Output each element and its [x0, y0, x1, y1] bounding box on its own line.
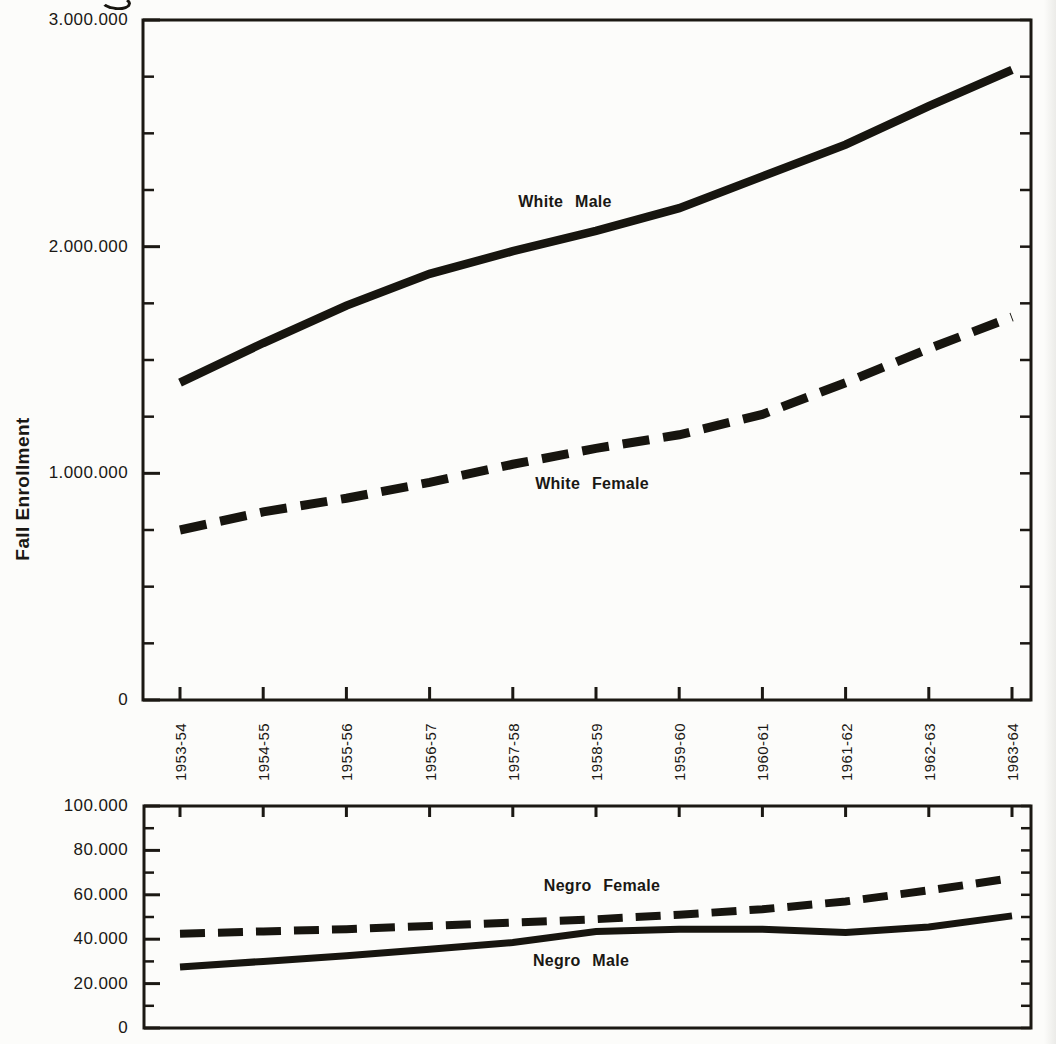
y-tick-label: 3.000.000 [0, 10, 128, 30]
y-tick-label: 2.000.000 [0, 237, 128, 257]
enrollment-charts-canvas [0, 0, 1056, 1044]
x-tick-label: 1956-57 [421, 723, 438, 781]
y-tick-label: 100.000 [0, 796, 128, 816]
y-tick-label: 60.000 [0, 885, 128, 905]
y-tick-label: 0 [0, 1018, 128, 1038]
x-tick-label: 1955-56 [338, 723, 355, 781]
x-tick-label: 1961-62 [837, 723, 854, 781]
x-tick-label: 1960-61 [754, 723, 771, 781]
series-label-negro-female: Negro Female [544, 877, 660, 895]
x-tick-label: 1959-60 [671, 723, 688, 781]
x-tick-label: 1957-58 [504, 723, 521, 781]
y-axis-title: Fall Enrollment [12, 417, 34, 560]
x-tick-label: 1963-64 [1004, 723, 1021, 781]
plot-box [144, 806, 1031, 1028]
series-label-white-male: White Male [518, 193, 612, 211]
x-tick-label: 1958-59 [588, 723, 605, 781]
y-tick-label: 40.000 [0, 929, 128, 949]
y-tick-label: 1.000.000 [0, 463, 128, 483]
series-line-white-female [180, 317, 1012, 530]
x-tick-label: 1954-55 [255, 723, 272, 781]
scanned-chart-page: Fall Enrollment 3.000.0002.000.0001.000.… [0, 0, 1056, 1044]
y-tick-label: 20.000 [0, 974, 128, 994]
series-label-white-female: White Female [535, 475, 649, 493]
series-line-white-male [180, 70, 1012, 383]
y-tick-label: 0 [0, 690, 128, 710]
series-label-negro-male: Negro Male [533, 952, 629, 970]
x-tick-label: 1962-63 [920, 723, 937, 781]
y-tick-label: 80.000 [0, 840, 128, 860]
x-tick-label: 1953-54 [172, 723, 189, 781]
